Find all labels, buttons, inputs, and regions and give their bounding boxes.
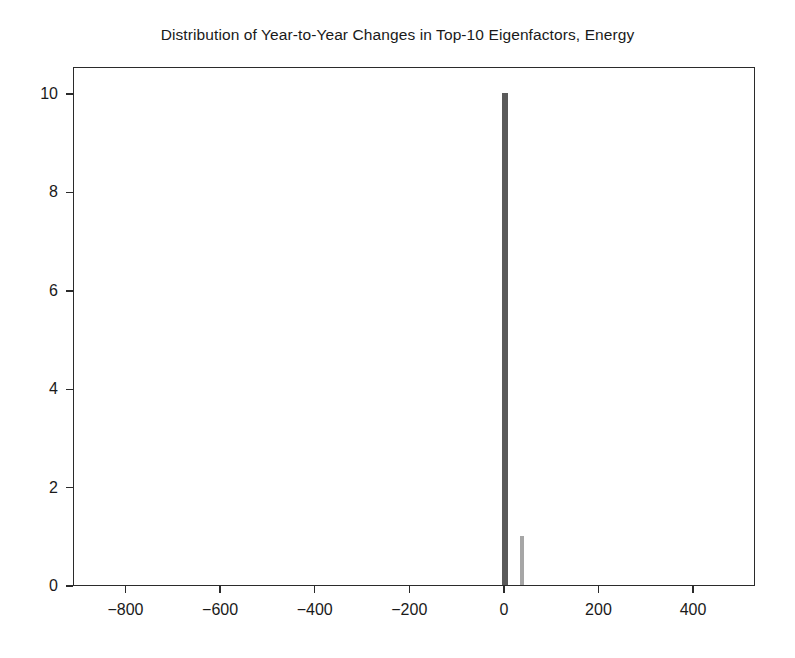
x-tick-label: 0	[499, 602, 508, 618]
x-tick-mark	[409, 586, 410, 593]
chart-title: Distribution of Year-to-Year Changes in …	[0, 26, 795, 44]
x-tick-label: −800	[107, 602, 143, 618]
y-tick-mark	[66, 290, 73, 291]
y-tick-label: 10	[2, 86, 58, 102]
x-tick-label: 200	[585, 602, 612, 618]
x-tick-label: −400	[297, 602, 333, 618]
x-tick-mark	[598, 586, 599, 593]
plot-area	[74, 68, 754, 585]
y-tick-label: 4	[2, 381, 58, 397]
y-tick-label: 0	[2, 578, 58, 594]
y-tick-label: 6	[2, 283, 58, 299]
y-tick-mark	[66, 585, 73, 586]
x-tick-mark	[219, 586, 220, 593]
x-tick-mark	[503, 586, 504, 593]
histogram-bar	[502, 93, 508, 585]
x-tick-label: −200	[391, 602, 427, 618]
y-tick-mark	[66, 487, 73, 488]
y-tick-mark	[66, 389, 73, 390]
plot-frame	[73, 67, 755, 586]
chart-figure: Distribution of Year-to-Year Changes in …	[0, 0, 795, 658]
x-tick-mark	[125, 586, 126, 593]
y-tick-label: 8	[2, 184, 58, 200]
x-tick-label: −600	[202, 602, 238, 618]
histogram-bar	[520, 536, 524, 585]
y-tick-mark	[66, 192, 73, 193]
x-tick-mark	[314, 586, 315, 593]
x-tick-label: 400	[680, 602, 707, 618]
y-tick-label: 2	[2, 480, 58, 496]
x-tick-mark	[692, 586, 693, 593]
y-tick-mark	[66, 93, 73, 94]
